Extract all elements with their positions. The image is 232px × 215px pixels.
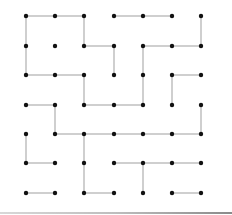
grid-dot xyxy=(170,191,174,195)
grid-dot xyxy=(82,161,86,165)
grid-dot xyxy=(141,103,145,107)
grid-dot xyxy=(199,44,203,48)
grid-dot xyxy=(141,132,145,136)
grid-dot xyxy=(82,44,86,48)
grid-dot xyxy=(24,14,28,18)
grid-dot xyxy=(82,14,86,18)
grid-dot xyxy=(199,14,203,18)
grid-dot xyxy=(112,14,116,18)
grid-dot xyxy=(141,161,145,165)
grid-dot xyxy=(82,191,86,195)
grid-dot xyxy=(112,73,116,77)
bottom-divider xyxy=(0,212,232,214)
grid-dot xyxy=(170,103,174,107)
grid-dot xyxy=(141,44,145,48)
grid-dot xyxy=(24,132,28,136)
grid-dot xyxy=(53,14,57,18)
grid-dot xyxy=(199,191,203,195)
grid-dot xyxy=(170,44,174,48)
grid-dot xyxy=(24,191,28,195)
grid-dot xyxy=(199,132,203,136)
grid-dot xyxy=(112,161,116,165)
grid-dot xyxy=(24,44,28,48)
grid-dot xyxy=(53,161,57,165)
grid-dot xyxy=(53,191,57,195)
grid-dot xyxy=(112,132,116,136)
grid-dot xyxy=(24,161,28,165)
grid-dot xyxy=(170,14,174,18)
grid-dot xyxy=(53,103,57,107)
grid-dot xyxy=(112,191,116,195)
grid-dot xyxy=(199,103,203,107)
grid-dot xyxy=(199,73,203,77)
grid-dot xyxy=(199,161,203,165)
grid-dot xyxy=(24,73,28,77)
grid-dot xyxy=(141,191,145,195)
grid-dot xyxy=(82,132,86,136)
grid-dot xyxy=(82,103,86,107)
grid-dot xyxy=(53,73,57,77)
grid-dot xyxy=(112,44,116,48)
grid-dot xyxy=(112,103,116,107)
dot-grid-maze xyxy=(0,0,232,215)
grid-dot xyxy=(53,132,57,136)
grid-dot xyxy=(170,161,174,165)
grid-dot xyxy=(82,73,86,77)
grid-dot xyxy=(141,14,145,18)
grid-dot xyxy=(170,73,174,77)
grid-dot xyxy=(170,132,174,136)
grid-dot xyxy=(24,103,28,107)
grid-dot xyxy=(141,73,145,77)
grid-dot xyxy=(53,44,57,48)
